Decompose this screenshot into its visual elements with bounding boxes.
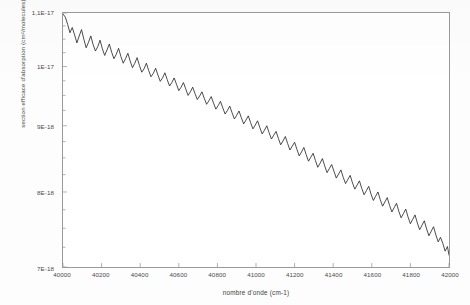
y-axis-title: section efficace d'absorption (cm²/molec… xyxy=(19,0,26,164)
x-axis-tick-labels: 4000040200404004060040800410004120041400… xyxy=(62,271,450,285)
y-tick-label-3: 8E-18 xyxy=(37,189,54,196)
chart-page: 1,1E-171E-179E-188E-187E-18 section effi… xyxy=(0,0,470,305)
x-axis-title: nombre d'onde (cm-1) xyxy=(62,289,450,296)
x-tick-label-3: 40600 xyxy=(170,271,188,278)
x-tick-label-10: 42000 xyxy=(441,271,459,278)
spectrum-plot-svg xyxy=(63,13,449,267)
x-axis-title-text: nombre d'onde (cm-1) xyxy=(223,289,290,296)
x-tick-label-9: 41800 xyxy=(402,271,420,278)
y-tick-label-0: 1,1E-17 xyxy=(32,9,54,16)
x-tick-label-2: 40400 xyxy=(131,271,149,278)
y-tick-label-4: 7E-18 xyxy=(37,265,54,272)
absorption-cross-section-curve xyxy=(63,14,449,255)
x-tick-label-6: 41200 xyxy=(286,271,304,278)
y-axis-tick-labels: 1,1E-171E-179E-188E-187E-18 xyxy=(0,12,58,268)
x-tick-label-5: 41000 xyxy=(247,271,265,278)
x-tick-label-0: 40000 xyxy=(53,271,71,278)
y-tick-label-2: 9E-18 xyxy=(37,122,54,129)
x-tick-label-8: 41600 xyxy=(364,271,382,278)
plot-area xyxy=(62,12,450,268)
x-tick-label-4: 40800 xyxy=(208,271,226,278)
axis-tick-marks xyxy=(63,13,449,267)
x-tick-label-7: 41400 xyxy=(325,271,343,278)
x-tick-label-1: 40200 xyxy=(92,271,110,278)
y-tick-label-1: 1E-17 xyxy=(37,62,54,69)
